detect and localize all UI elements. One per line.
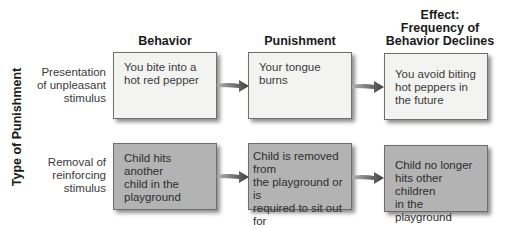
box-text-line: burns (259, 74, 341, 87)
row-label-presentation: Presentation of unpleasant stimulus (26, 66, 106, 105)
row-label-removal: Removal of reinforcing stimulus (26, 156, 106, 195)
arrow-right-icon (217, 79, 249, 93)
box-text-line: You bite into a (124, 61, 206, 74)
row-label-line: stimulus (26, 182, 106, 195)
box-text-line: hot peppers in (395, 81, 477, 94)
row-label-line: of unpleasant (26, 79, 106, 92)
column-header-punishment-text: Punishment (264, 34, 336, 48)
arrow-right-icon (352, 171, 384, 185)
box-text-line: You avoid biting (395, 68, 477, 81)
row-label-line: Removal of (26, 156, 106, 169)
box-effect-no-longer-hits: Child no longer hits other children in t… (384, 145, 488, 212)
arrow-right-icon (217, 170, 249, 184)
box-behavior-pepper: You bite into a hot red pepper (113, 52, 217, 119)
box-text-line: playground (124, 191, 206, 204)
box-text-line: hits other children (395, 172, 477, 198)
box-text-line: the future (395, 94, 477, 107)
box-punishment-removed: Child is removed from the playground or … (248, 143, 352, 210)
box-text-line: child in the (124, 178, 206, 191)
row-label-line: reinforcing (26, 169, 106, 182)
box-text-line: Your tongue (259, 61, 341, 74)
box-text-line: Child no longer (395, 159, 477, 172)
type-of-punishment-axis-label: Type of Punishment (10, 65, 24, 190)
box-punishment-tongue: Your tongue burns (248, 52, 352, 119)
box-text-line: hot red pepper (124, 74, 206, 87)
column-header-effect: Effect: Frequency of Behavior Declines (376, 9, 504, 48)
box-text-line: the playground or is (253, 176, 347, 202)
box-effect-avoid-peppers: You avoid biting hot peppers in the futu… (384, 53, 488, 120)
box-behavior-child-hits: Child hits another child in the playgrou… (113, 143, 217, 210)
box-text-line: Child hits another (124, 152, 206, 178)
column-header-behavior: Behavior (105, 35, 225, 48)
column-header-effect-line: Behavior Declines (376, 35, 504, 48)
box-text-line: Child is removed from (253, 150, 347, 176)
box-text-line: required to sit out for (253, 202, 347, 228)
box-text-line: in the playground (395, 198, 477, 224)
column-header-punishment: Punishment (240, 35, 360, 48)
row-label-line: Presentation (26, 66, 106, 79)
arrow-right-icon (352, 80, 384, 94)
row-label-line: stimulus (26, 92, 106, 105)
column-header-behavior-text: Behavior (138, 34, 192, 48)
